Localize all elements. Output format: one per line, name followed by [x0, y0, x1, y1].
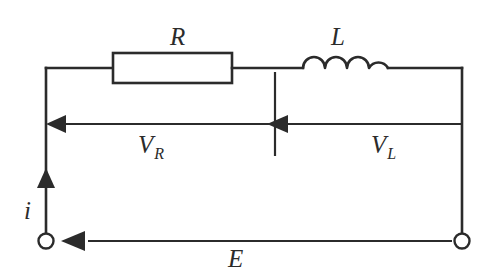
voltage-left-arrowhead-icon — [46, 115, 66, 133]
circuit-schematic-svg — [0, 0, 484, 280]
voltage-inductor-label: VL — [371, 132, 395, 157]
left-terminal-node — [39, 234, 54, 249]
inductor-label: L — [331, 24, 345, 49]
inductor-symbol — [303, 57, 388, 68]
voltage-inductor-subscript: L — [387, 145, 396, 162]
voltage-resistor-label: VR — [138, 132, 163, 157]
current-label: i — [24, 198, 31, 223]
voltage-inductor-symbol: V — [371, 131, 386, 158]
voltage-resistor-subscript: R — [154, 145, 164, 162]
right-terminal-node — [455, 234, 470, 249]
source-arrowhead-icon — [61, 231, 85, 251]
circuit-diagram: R L VR VL i E — [0, 0, 484, 280]
voltage-resistor-symbol: V — [138, 131, 153, 158]
source-voltage-label: E — [228, 246, 243, 271]
voltage-mid-arrowhead-icon — [267, 115, 288, 133]
resistor-symbol — [113, 53, 232, 83]
current-arrowhead-icon — [37, 168, 55, 188]
resistor-label: R — [170, 24, 185, 49]
